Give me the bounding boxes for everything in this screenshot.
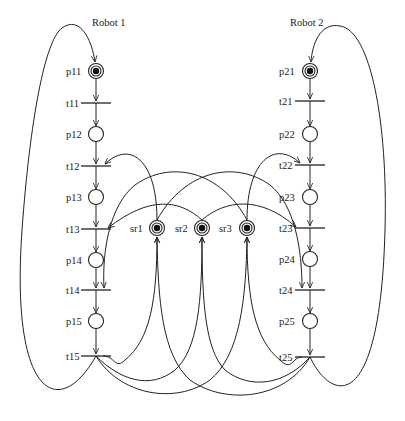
token — [199, 225, 205, 231]
arc-t15-sr1 — [103, 237, 157, 364]
token — [93, 68, 99, 74]
place-sr1 — [150, 221, 165, 236]
robot-1-chain: p11 t11 p12 t12 p13 t13 p14 t14 p15 t15 — [66, 64, 111, 363]
place-p13 — [89, 190, 104, 205]
robot-2-chain: p21 t21 p22 t22 p23 t23 p24 t24 p25 t25 — [279, 64, 325, 364]
place-p24 — [303, 252, 318, 267]
label-p14: p14 — [66, 255, 83, 266]
place-p21 — [303, 64, 318, 79]
place-p15 — [89, 314, 104, 329]
token — [307, 68, 313, 74]
label-t13: t13 — [66, 224, 79, 235]
label-p12: p12 — [66, 129, 82, 140]
token — [154, 225, 160, 231]
label-t21: t21 — [279, 96, 292, 107]
place-p23 — [303, 190, 318, 205]
arc-sr1-t12 — [105, 154, 157, 220]
label-t15: t15 — [66, 351, 79, 362]
arc-t25-p21 — [310, 26, 385, 386]
label-t24: t24 — [279, 285, 293, 296]
arc-t15-p11 — [20, 24, 96, 389]
place-p22 — [303, 127, 318, 142]
label-sr2: sr2 — [175, 223, 188, 234]
resources: sr1 sr2 sr3 — [130, 221, 255, 236]
place-p11 — [89, 64, 104, 79]
label-t11: t11 — [66, 98, 79, 109]
place-p14 — [89, 253, 104, 268]
place-p25 — [303, 314, 318, 329]
label-p22: p22 — [279, 129, 295, 140]
place-p12 — [89, 127, 104, 142]
label-p24: p24 — [279, 254, 296, 265]
label-p21: p21 — [279, 66, 295, 77]
token — [244, 225, 250, 231]
label-t12: t12 — [66, 161, 79, 172]
label-t14: t14 — [66, 285, 80, 296]
label-p15: p15 — [66, 316, 82, 327]
place-sr2 — [195, 221, 210, 236]
label-t22: t22 — [279, 160, 292, 171]
label-p25: p25 — [279, 316, 295, 327]
place-sr3 — [240, 221, 255, 236]
robot-2-title: Robot 2 — [290, 17, 324, 28]
label-sr3: sr3 — [219, 223, 232, 234]
label-p11: p11 — [66, 66, 81, 77]
label-p13: p13 — [66, 192, 82, 203]
arc-t15-sr3 — [96, 237, 247, 394]
label-sr1: sr1 — [130, 223, 143, 234]
robot-1-title: Robot 1 — [92, 17, 126, 28]
label-t23: t23 — [279, 223, 292, 234]
petri-net-diagram: Robot 1 Robot 2 p11 t11 p12 t12 p13 t — [0, 0, 405, 421]
